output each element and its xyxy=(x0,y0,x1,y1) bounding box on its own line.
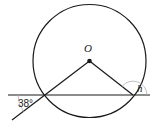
angle-arc-h xyxy=(122,81,147,95)
angle-label-38: 38° xyxy=(18,98,33,109)
radius-right xyxy=(90,61,134,95)
geometry-diagram: O 38° h xyxy=(0,0,154,121)
angle-label-h: h xyxy=(137,82,143,94)
center-point xyxy=(87,59,92,64)
center-label: O xyxy=(84,42,92,54)
